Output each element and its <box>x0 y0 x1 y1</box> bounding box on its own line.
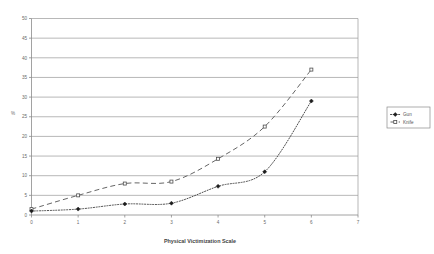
knife-point <box>77 194 80 197</box>
y-tick-label: 45 <box>22 36 28 41</box>
y-tick-label: 0 <box>24 213 27 218</box>
knife-point <box>123 182 126 185</box>
line-chart: 05101520253035404550 01234567 % Physical… <box>0 0 434 254</box>
y-tick-label: 50 <box>22 16 28 21</box>
x-tick-label: 2 <box>124 220 127 225</box>
y-tick-labels: 05101520253035404550 <box>22 16 32 218</box>
knife-line <box>32 70 312 210</box>
series-knife <box>30 68 313 211</box>
legend-item-knife-label[interactable]: Knife <box>403 120 414 125</box>
knife-point <box>310 68 313 71</box>
legend-item-gun-label[interactable]: Gun <box>403 112 412 117</box>
y-tick-label: 35 <box>22 75 28 80</box>
y-tick-label: 15 <box>22 154 28 159</box>
y-axis-title: % <box>11 111 15 116</box>
legend-item-knife-marker <box>394 121 397 124</box>
knife-point <box>170 180 173 183</box>
y-tick-label: 25 <box>22 114 28 119</box>
x-tick-label: 3 <box>170 220 173 225</box>
x-tick-label: 4 <box>217 220 220 225</box>
x-tick-label: 5 <box>263 220 266 225</box>
x-tick-labels: 01234567 <box>30 215 360 225</box>
chart-container: 05101520253035404550 01234567 % Physical… <box>0 0 434 254</box>
gun-point <box>76 207 80 211</box>
x-tick-label: 1 <box>77 220 80 225</box>
x-axis-title: Physical Victimization Scale <box>164 238 236 244</box>
y-tick-label: 10 <box>22 173 28 178</box>
x-tick-label: 6 <box>310 220 313 225</box>
x-tick-label: 7 <box>357 220 360 225</box>
y-tick-label: 30 <box>22 95 28 100</box>
knife-point <box>217 157 220 160</box>
gun-point <box>216 184 220 188</box>
gun-point <box>169 201 173 205</box>
gun-point <box>123 202 127 206</box>
chart-legend[interactable]: GunKnife <box>387 107 430 128</box>
legend-box <box>387 107 430 128</box>
knife-point <box>263 125 266 128</box>
x-tick-label: 0 <box>30 220 33 225</box>
y-tick-label: 5 <box>24 193 27 198</box>
y-tick-label: 40 <box>22 56 28 61</box>
y-tick-label: 20 <box>22 134 28 139</box>
